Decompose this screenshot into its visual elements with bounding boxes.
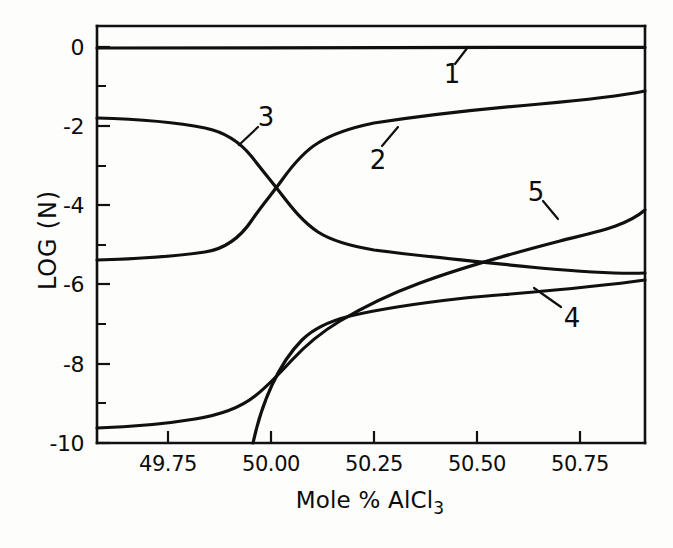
y-axis-title: LOG (N) xyxy=(34,190,62,290)
curve-series-3 xyxy=(97,118,645,273)
annotation-leaders xyxy=(239,47,561,307)
y-tick-label-minus2: -2 xyxy=(63,114,84,139)
y-axis-ticks xyxy=(97,47,110,443)
series-label-3: 3 xyxy=(258,102,275,132)
x-tick-label-50-75: 50.75 xyxy=(551,452,609,476)
curve-series-1 xyxy=(97,47,645,48)
x-axis-title: Mole % AlCl3 xyxy=(296,487,445,518)
x-axis-title-main: Mole % AlCl xyxy=(296,487,434,513)
axis-frame xyxy=(97,26,645,443)
y-tick-label-0: 0 xyxy=(71,35,85,60)
x-axis-ticks xyxy=(168,431,580,443)
y-tick-label-minus6: -6 xyxy=(63,272,84,297)
x-axis-title-subscript: 3 xyxy=(433,498,444,518)
series-curves xyxy=(97,47,645,443)
x-tick-label-50-00: 50.00 xyxy=(242,452,300,476)
series-label-2: 2 xyxy=(370,145,387,175)
y-tick-label-minus10: -10 xyxy=(50,431,84,456)
x-tick-label-50-25: 50.25 xyxy=(345,452,403,476)
series-label-5: 5 xyxy=(528,177,545,207)
leader-series-2 xyxy=(382,127,398,146)
curve-series-2 xyxy=(97,91,645,260)
figure-canvas: 0 -2 -4 -6 -8 -10 49.75 50.00 50.25 50.5… xyxy=(0,0,673,548)
leader-series-3 xyxy=(239,127,258,145)
series-label-4: 4 xyxy=(564,303,581,333)
curve-series-4 xyxy=(253,280,645,443)
y-tick-label-minus8: -8 xyxy=(63,352,84,377)
leader-series-5 xyxy=(543,201,558,219)
x-tick-label-49-75: 49.75 xyxy=(139,452,197,476)
x-tick-label-50-50: 50.50 xyxy=(448,452,506,476)
series-label-1: 1 xyxy=(444,59,461,89)
y-tick-label-minus4: -4 xyxy=(63,193,84,218)
